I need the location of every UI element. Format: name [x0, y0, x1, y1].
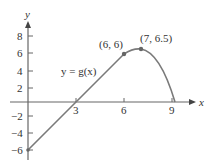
x-tick-label-3: 3 — [73, 104, 79, 116]
function-curve — [26, 47, 175, 152]
y-tick-label-4: 4 — [17, 65, 23, 77]
point-start — [26, 148, 30, 152]
y-tick-label-m6: −6 — [11, 144, 23, 156]
point-label-7-6.5: (7, 6.5) — [140, 32, 172, 45]
y-axis-label: y — [24, 8, 30, 20]
x-tick-label-9: 9 — [169, 104, 175, 116]
y-tick-label-m4: −4 — [11, 127, 23, 139]
point-label-6-6: (6, 6) — [99, 38, 123, 51]
function-graph: 3 6 9 x y 8 6 4 2 −2 −4 −6 y = g(x) (6, … — [0, 0, 210, 166]
x-tick-label-6: 6 — [121, 104, 127, 116]
x-axis-label: x — [198, 96, 204, 108]
point-6-6 — [122, 52, 126, 56]
point-7-6.5 — [139, 47, 143, 51]
y-tick-label-2: 2 — [17, 82, 23, 94]
y-tick-label-m2: −2 — [11, 110, 23, 122]
y-axis: y 8 6 4 2 −2 −4 −6 — [11, 8, 33, 160]
x-axis-arrow-icon — [189, 99, 196, 105]
y-axis-arrow-icon — [25, 21, 31, 28]
y-tick-label-8: 8 — [17, 30, 23, 42]
y-tick-label-6: 6 — [17, 47, 23, 59]
function-label: y = g(x) — [61, 65, 97, 78]
